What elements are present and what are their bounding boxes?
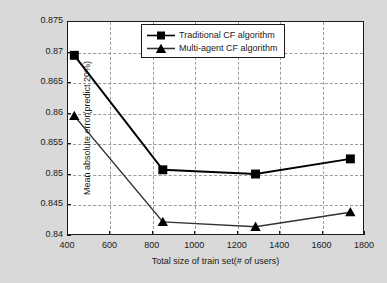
y-tick-mark xyxy=(67,204,71,205)
x-tick-mark xyxy=(194,231,195,235)
x-tick-label: 1600 xyxy=(302,241,342,250)
data-point-marker xyxy=(345,207,355,216)
x-tick-mark xyxy=(322,231,323,235)
data-point-marker xyxy=(158,165,167,174)
legend-label-multiagent: Multi-agent CF algorithm xyxy=(176,43,278,53)
x-tick-label: 1000 xyxy=(174,241,214,250)
y-tick-mark xyxy=(67,235,71,236)
y-tick-mark xyxy=(67,113,71,114)
x-tick-label: 800 xyxy=(132,241,172,250)
y-tick-label: 0.86 xyxy=(3,108,63,117)
x-tick-label: 1200 xyxy=(217,241,257,250)
x-tick-label: 1400 xyxy=(259,241,299,250)
y-tick-label: 0.85 xyxy=(3,169,63,178)
legend-marker-square-icon xyxy=(146,28,176,41)
legend-label-traditional: Traditional CF algorithm xyxy=(176,30,275,40)
y-tick-mark xyxy=(67,82,71,83)
data-point-marker xyxy=(251,170,260,179)
chart-legend: Traditional CF algorithm Multi-agent CF … xyxy=(141,24,285,58)
y-tick-label: 0.875 xyxy=(3,16,63,25)
x-axis-label: Total size of train set(# of users) xyxy=(67,256,364,266)
legend-item-traditional: Traditional CF algorithm xyxy=(146,28,278,41)
series-line-1 xyxy=(74,55,350,174)
y-tick-mark xyxy=(67,174,71,175)
y-tick-mark xyxy=(67,52,71,53)
data-point-marker xyxy=(70,51,79,60)
chart-figure: 0.840.8450.850.8550.860.8650.870.875 400… xyxy=(0,0,387,283)
legend-item-multiagent: Multi-agent CF algorithm xyxy=(146,41,278,54)
x-tick-mark xyxy=(67,231,68,235)
x-tick-mark xyxy=(237,231,238,235)
y-tick-label: 0.84 xyxy=(3,230,63,239)
x-tick-label: 600 xyxy=(89,241,129,250)
x-tick-mark xyxy=(364,231,365,235)
x-tick-label: 400 xyxy=(47,241,87,250)
y-tick-mark xyxy=(67,143,71,144)
data-point-marker xyxy=(346,154,355,163)
x-tick-mark xyxy=(279,231,280,235)
x-tick-label: 1800 xyxy=(344,241,384,250)
legend-marker-triangle-icon xyxy=(146,41,176,54)
y-tick-label: 0.87 xyxy=(3,47,63,56)
x-tick-mark xyxy=(152,231,153,235)
x-tick-mark xyxy=(109,231,110,235)
y-tick-label: 0.845 xyxy=(3,199,63,208)
y-tick-label: 0.865 xyxy=(3,77,63,86)
y-tick-mark xyxy=(67,21,71,22)
y-tick-label: 0.855 xyxy=(3,138,63,147)
